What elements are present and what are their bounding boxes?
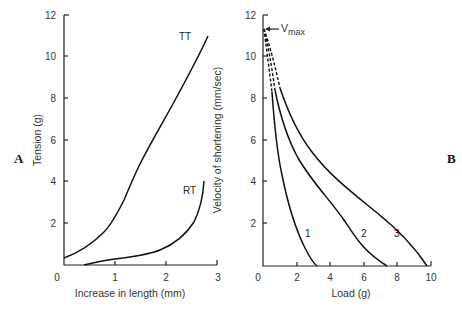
b-ytick-6: 6 xyxy=(250,135,256,146)
b-xtick-2: 2 xyxy=(294,272,300,283)
figure: 12 10 8 6 4 2 0 1 2 3 Increase in length… xyxy=(0,0,462,312)
curve-1 xyxy=(272,92,317,266)
b-xtick-10: 10 xyxy=(425,272,437,283)
a-ytick-4: 4 xyxy=(50,176,56,187)
a-xtick-1: 1 xyxy=(112,272,118,283)
rt-label: RT xyxy=(183,185,196,196)
curve-2-label: 2 xyxy=(361,228,367,239)
b-xtick-6: 6 xyxy=(361,272,367,283)
a-xtick-2: 2 xyxy=(163,272,169,283)
b-xtick-4: 4 xyxy=(327,272,333,283)
b-y-axis-label: Velocity of shortening (mm/sec) xyxy=(211,67,223,213)
a-ytick-6: 6 xyxy=(50,135,56,146)
curve-3-label: 3 xyxy=(394,228,400,239)
a-xtick-0: 0 xyxy=(54,272,60,283)
panel-a-axes xyxy=(64,15,217,265)
a-xtick-3: 3 xyxy=(215,272,221,283)
b-ytick-8: 8 xyxy=(250,93,256,104)
arrow-left-icon xyxy=(265,27,270,32)
b-x-axis-label: Load (g) xyxy=(331,287,370,299)
a-ytick-10: 10 xyxy=(45,51,57,62)
panel-a-x-ticks xyxy=(115,260,217,265)
b-ytick-2: 2 xyxy=(250,218,256,229)
panel-b-label: B xyxy=(447,151,456,166)
curve-1-label: 1 xyxy=(305,228,311,239)
a-x-axis-label: Increase in length (mm) xyxy=(75,287,185,299)
b-ytick-10: 10 xyxy=(245,51,257,62)
curve-3 xyxy=(280,88,427,266)
a-ytick-2: 2 xyxy=(50,218,56,229)
tt-label: TT xyxy=(179,31,191,42)
panel-a: 12 10 8 6 4 2 0 1 2 3 Increase in length… xyxy=(14,10,221,299)
a-ytick-12: 12 xyxy=(45,10,57,21)
panel-a-label: A xyxy=(14,151,24,166)
panel-b: 12 10 8 6 4 2 0 2 4 6 8 10 Load (g) Velo… xyxy=(211,10,456,299)
panel-b-axes xyxy=(263,15,431,266)
vmax-label: Vmax xyxy=(281,22,306,37)
curve-3-extrapolation xyxy=(264,29,280,88)
b-ytick-4: 4 xyxy=(250,176,256,187)
b-xtick-8: 8 xyxy=(394,272,400,283)
a-ytick-8: 8 xyxy=(50,93,56,104)
vmax-annotation: Vmax xyxy=(265,22,306,37)
b-xtick-0: 0 xyxy=(255,272,261,283)
panel-a-y-ticks xyxy=(64,15,69,223)
tt-curve xyxy=(64,36,208,258)
b-ytick-12: 12 xyxy=(245,10,257,21)
a-y-axis-label: Tension (g) xyxy=(31,114,43,166)
